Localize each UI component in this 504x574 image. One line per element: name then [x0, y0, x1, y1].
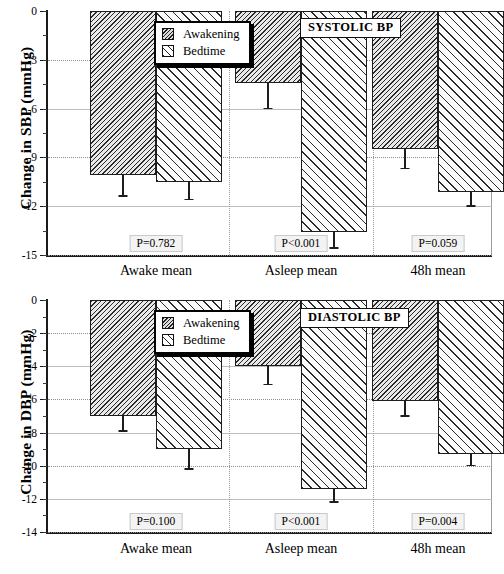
y-minor-tick-dbp [43, 366, 47, 367]
y-minor-tick-sbp [43, 109, 47, 110]
error-bar-sbp-bedtime-2 [470, 192, 471, 207]
error-bar-sbp-bedtime-1 [333, 232, 334, 248]
error-bar-dbp-bedtime-0 [188, 449, 189, 469]
y-tick-label-sbp-0: 0 [31, 5, 37, 17]
error-cap-sbp-bedtime-2 [467, 205, 476, 207]
error-cap-dbp-bedtime-0 [185, 468, 194, 470]
error-cap-sbp-awakening-2 [401, 168, 410, 170]
y-minor-tick-dbp [43, 449, 47, 450]
y-tick-label-dbp--12: -12 [22, 493, 37, 505]
awakening-swatch-icon [162, 317, 174, 329]
gridline-dbp--10 [48, 466, 492, 467]
gridline-dbp--12 [48, 499, 492, 500]
gridline-sbp--15 [48, 255, 492, 256]
y-minor-tick-dbp [43, 416, 47, 417]
p-value-sbp-1: P<0.001 [275, 235, 328, 252]
category-label-dbp-2: 48h mean [411, 541, 466, 557]
panel-tag-dbp: DIASTOLIC BP [300, 308, 409, 328]
y-minor-tick-dbp [43, 383, 47, 384]
y-tick-label-sbp--3: -3 [27, 54, 37, 66]
legend-label-sbp-1: Bedtime [183, 44, 225, 59]
y-minor-tick-sbp [43, 255, 47, 256]
y-minor-tick-sbp [43, 133, 47, 134]
y-minor-tick-sbp [43, 11, 47, 12]
awakening-swatch-icon [162, 28, 174, 40]
y-tick-label-sbp--6: -6 [27, 103, 37, 115]
y-tick-label-sbp--9: -9 [27, 151, 37, 163]
error-bar-dbp-awakening-2 [404, 401, 405, 416]
y-tick-label-dbp--6: -6 [27, 393, 37, 405]
error-bar-sbp-bedtime-0 [188, 182, 189, 200]
y-tick-label-dbp--8: -8 [27, 427, 37, 439]
y-minor-tick-dbp [43, 399, 47, 400]
panel-systolic-bp: Change in SBP (mmHg) 0-3-6-9-12-15P=0.78… [0, 0, 500, 287]
legend-label-dbp-0: Awakening [183, 316, 239, 331]
y-minor-tick-sbp [43, 60, 47, 61]
bar-sbp-awakening-0[interactable] [90, 11, 156, 175]
bedtime-swatch-icon [162, 45, 174, 57]
panel-tag-sbp: SYSTOLIC BP [300, 18, 401, 38]
y-axis-title-dbp: Change in DBP (mmHg) [17, 312, 35, 512]
y-minor-tick-dbp [43, 317, 47, 318]
y-minor-tick-sbp [43, 157, 47, 158]
y-tick-label-dbp--10: -10 [22, 460, 37, 472]
plot-area-sbp: 0-3-6-9-12-15P=0.782Awake meanP<0.001Asl… [48, 11, 492, 255]
y-tick-label-dbp--14: -14 [22, 526, 37, 538]
category-label-dbp-0: Awake mean [120, 541, 192, 557]
y-minor-tick-dbp [43, 499, 47, 500]
category-label-sbp-1: Asleep mean [265, 263, 338, 279]
p-value-sbp-0: P=0.782 [130, 235, 183, 252]
error-cap-dbp-awakening-0 [119, 430, 128, 432]
y-tick-label-sbp--15: -15 [22, 249, 37, 261]
y-minor-tick-dbp [43, 333, 47, 334]
p-value-sbp-2: P=0.059 [412, 235, 465, 252]
y-minor-tick-dbp [43, 300, 47, 301]
y-minor-tick-dbp [43, 350, 47, 351]
y-minor-tick-sbp [43, 35, 47, 36]
error-bar-sbp-awakening-0 [122, 175, 123, 196]
error-bar-dbp-awakening-1 [267, 366, 268, 384]
bar-dbp-bedtime-1[interactable] [301, 300, 367, 489]
y-minor-tick-dbp [43, 482, 47, 483]
legend-sbp: AwakeningBedtime [154, 21, 251, 65]
bar-sbp-bedtime-1[interactable] [301, 11, 367, 232]
y-minor-tick-dbp [43, 433, 47, 434]
error-cap-dbp-bedtime-1 [330, 501, 339, 503]
error-bar-sbp-awakening-1 [267, 83, 268, 109]
gridline-dbp--14 [48, 532, 492, 533]
panel-diastolic-bp: Change in DBP (mmHg) 0-2-4-6-8-10-12-14P… [0, 287, 500, 574]
y-minor-tick-sbp [43, 182, 47, 183]
category-label-sbp-2: 48h mean [411, 263, 466, 279]
p-value-dbp-2: P=0.004 [412, 513, 465, 530]
plot-area-dbp: 0-2-4-6-8-10-12-14P=0.100Awake meanP<0.0… [48, 300, 492, 532]
bar-sbp-bedtime-2[interactable] [438, 11, 504, 192]
y-minor-tick-sbp [43, 84, 47, 85]
legend-item-dbp-0[interactable]: Awakening [162, 315, 239, 331]
y-tick-label-dbp-0: 0 [31, 294, 37, 306]
legend-item-dbp-1[interactable]: Bedtime [162, 332, 239, 348]
gridline-dbp--8 [48, 433, 492, 434]
legend-item-sbp-1[interactable]: Bedtime [162, 43, 239, 59]
y-tick-label-dbp--2: -2 [27, 327, 37, 339]
error-cap-sbp-bedtime-1 [330, 247, 339, 249]
y-minor-tick-dbp [43, 466, 47, 467]
y-tick-label-sbp--12: -12 [22, 200, 37, 212]
y-minor-tick-dbp [43, 515, 47, 516]
legend-dbp: AwakeningBedtime [154, 310, 251, 354]
error-cap-dbp-awakening-1 [264, 384, 273, 386]
error-cap-sbp-awakening-0 [119, 195, 128, 197]
bedtime-swatch-icon [162, 334, 174, 346]
y-minor-tick-sbp [43, 231, 47, 232]
gridline-sbp--12 [48, 206, 492, 207]
y-minor-tick-sbp [43, 206, 47, 207]
category-label-sbp-0: Awake mean [120, 263, 192, 279]
legend-item-sbp-0[interactable]: Awakening [162, 26, 239, 42]
legend-label-dbp-1: Bedtime [183, 333, 225, 348]
y-minor-tick-dbp [43, 532, 47, 533]
legend-label-sbp-0: Awakening [183, 27, 239, 42]
bar-dbp-awakening-0[interactable] [90, 300, 156, 416]
y-tick-label-dbp--4: -4 [27, 360, 37, 372]
bar-dbp-bedtime-2[interactable] [438, 300, 504, 454]
error-bar-dbp-bedtime-1 [333, 489, 334, 502]
